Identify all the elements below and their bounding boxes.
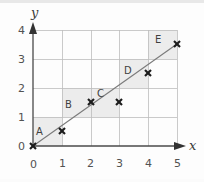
region-label-b: B [65,100,72,110]
x-tick-2: 2 [87,158,94,169]
y-tick-4: 4 [18,25,25,36]
y-axis-arrowhead [29,22,37,34]
region-label-d: D [124,66,132,76]
x-tick-1: 1 [59,158,66,169]
region-label-c: C [97,89,104,99]
x-axis-arrowhead [174,142,186,150]
y-tick-2: 2 [18,83,25,94]
x-tick-0: 0 [30,159,37,170]
x-tick-5: 5 [174,158,181,169]
x-tick-4: 4 [145,158,152,169]
y-tick-0: 0 [18,141,25,152]
x-tick-3: 3 [116,158,123,169]
region-label-e: E [155,35,161,45]
y-tick-1: 1 [18,112,25,123]
y-tick-3: 3 [18,54,25,65]
y-axis-label: y [31,6,38,19]
region-label-a: A [36,127,43,137]
x-axis-label: x [189,139,196,152]
coordinate-grid-figure: y x 4 3 2 1 0 0 1 2 3 4 5 A B C D E [0,0,204,182]
